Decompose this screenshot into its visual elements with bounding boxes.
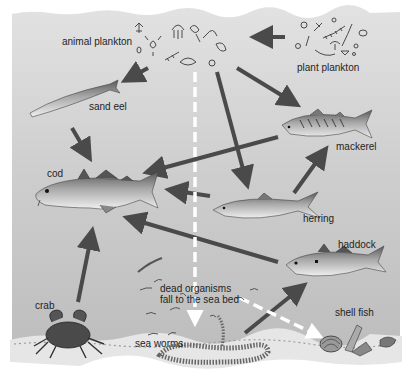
label-herring: herring [303,213,334,224]
food-web-diagram: animal plankton plant plankton sand eel … [0,0,415,381]
label-cod: cod [47,168,63,179]
label-haddock: haddock [338,239,376,250]
diagram-scene [0,0,415,381]
label-sand-eel: sand eel [89,101,127,112]
label-crab: crab [35,300,54,311]
label-sea-worms: sea worms [135,338,183,349]
label-animal-plankton: animal plankton [62,36,132,47]
label-mackerel: mackerel [336,141,377,152]
label-dead-organisms: dead organisms fall to the sea bed [160,283,239,305]
label-plant-plankton: plant plankton [297,62,359,73]
label-shell-fish: shell fish [335,307,374,318]
